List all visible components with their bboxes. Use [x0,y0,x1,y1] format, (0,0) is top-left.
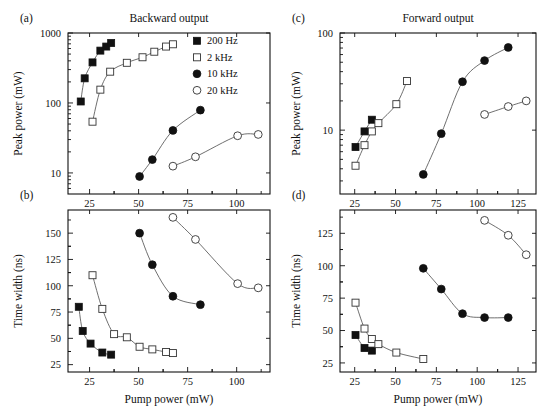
data-point [169,41,176,48]
y-axis-title: Time width (ns) [290,254,303,328]
data-point [169,292,177,300]
data-point [99,349,106,356]
series-2-khz [352,299,427,362]
data-point [403,78,410,85]
series-2-khz [352,78,410,170]
data-point [148,261,156,269]
y-axis-title: Peak power (mW) [290,71,303,155]
data-point [254,131,262,139]
data-point [504,44,512,52]
data-point [522,251,530,259]
series-curve-20-khz [173,134,258,166]
x-tick-label: 75 [431,198,442,209]
y-tick-label: 10 [51,168,62,179]
series-10-khz [419,44,512,179]
x-tick-label: 50 [390,198,401,209]
data-point [437,285,445,293]
data-point [108,39,115,46]
x-axis-title: Pump power (mW) [394,393,483,406]
x-tick-label: 50 [133,198,144,209]
data-point [481,57,489,65]
y-tick-label: 150 [45,228,61,239]
panel-d: 255075100125255075100125(d)Time width (n… [290,189,536,406]
data-point [481,111,489,119]
x-tick-label: 125 [510,198,526,209]
y-tick-label: 100 [317,261,333,272]
data-point [481,314,489,322]
data-point [123,59,130,66]
x-tick-label: 25 [349,376,360,387]
data-point [107,68,114,75]
data-point [522,97,530,105]
series-20-khz [169,131,262,171]
series-200-hz [75,303,114,358]
data-point [361,128,368,135]
data-point [393,349,400,356]
figure-root: 255075100101001000(a)Peak power (mW)Back… [0,0,547,417]
data-point [77,98,84,105]
legend-marker-open-square [194,54,201,61]
data-point [75,303,82,310]
x-tick-label: 25 [349,198,360,209]
data-point [136,343,143,350]
x-tick-label: 100 [229,376,245,387]
data-point [79,327,86,334]
data-point [151,48,158,55]
y-axis-title: Peak power (mW) [12,71,25,155]
data-point [504,103,512,111]
data-point [196,106,204,114]
panel-tag: (b) [20,189,34,202]
plot-frame [340,33,536,194]
series-20-khz [481,97,530,118]
data-point [163,43,170,50]
data-point [169,162,177,170]
legend-label: 2 kHz [207,52,233,63]
column-title: Forward output [402,12,474,25]
data-point [81,75,88,82]
data-point [420,356,427,363]
y-tick-label: 100 [317,28,333,39]
x-tick-label: 75 [431,376,442,387]
data-point [123,334,130,341]
data-point [437,130,445,138]
series-curve-2-khz [93,275,173,353]
data-point [89,272,96,279]
data-point [192,153,200,161]
x-tick-label: 25 [84,198,95,209]
data-point [375,120,382,127]
y-tick-label: 25 [51,359,62,370]
y-tick-label: 50 [323,325,334,336]
data-point [254,284,262,292]
data-point [163,349,170,356]
data-point [97,86,104,93]
data-point [361,325,368,332]
series-curve-20-khz [173,217,258,288]
x-tick-label: 125 [510,376,526,387]
data-point [419,264,427,272]
data-point [169,350,176,357]
y-tick-label: 125 [317,228,333,239]
panel-tag: (c) [292,12,305,25]
x-tick-label: 100 [229,198,245,209]
data-point [459,310,467,318]
data-point [196,301,204,309]
data-point [234,132,242,140]
data-point [169,213,177,221]
x-tick-label: 75 [182,198,193,209]
y-tick-label: 75 [51,307,62,318]
legend-label: 10 kHz [207,68,238,79]
data-point [89,118,96,125]
y-axis-title: Time width (ns) [12,254,25,328]
data-point [136,229,144,237]
y-tick-label: 100 [45,98,61,109]
data-point [368,335,375,342]
data-point [192,236,200,244]
legend-marker-filled-square [194,37,201,44]
x-tick-label: 100 [469,376,485,387]
data-point [352,332,359,339]
data-point [368,128,375,135]
data-point [375,341,382,348]
plot-frame [68,210,270,372]
x-tick-label: 25 [84,376,95,387]
x-axis-title: Pump power (mW) [125,393,214,406]
